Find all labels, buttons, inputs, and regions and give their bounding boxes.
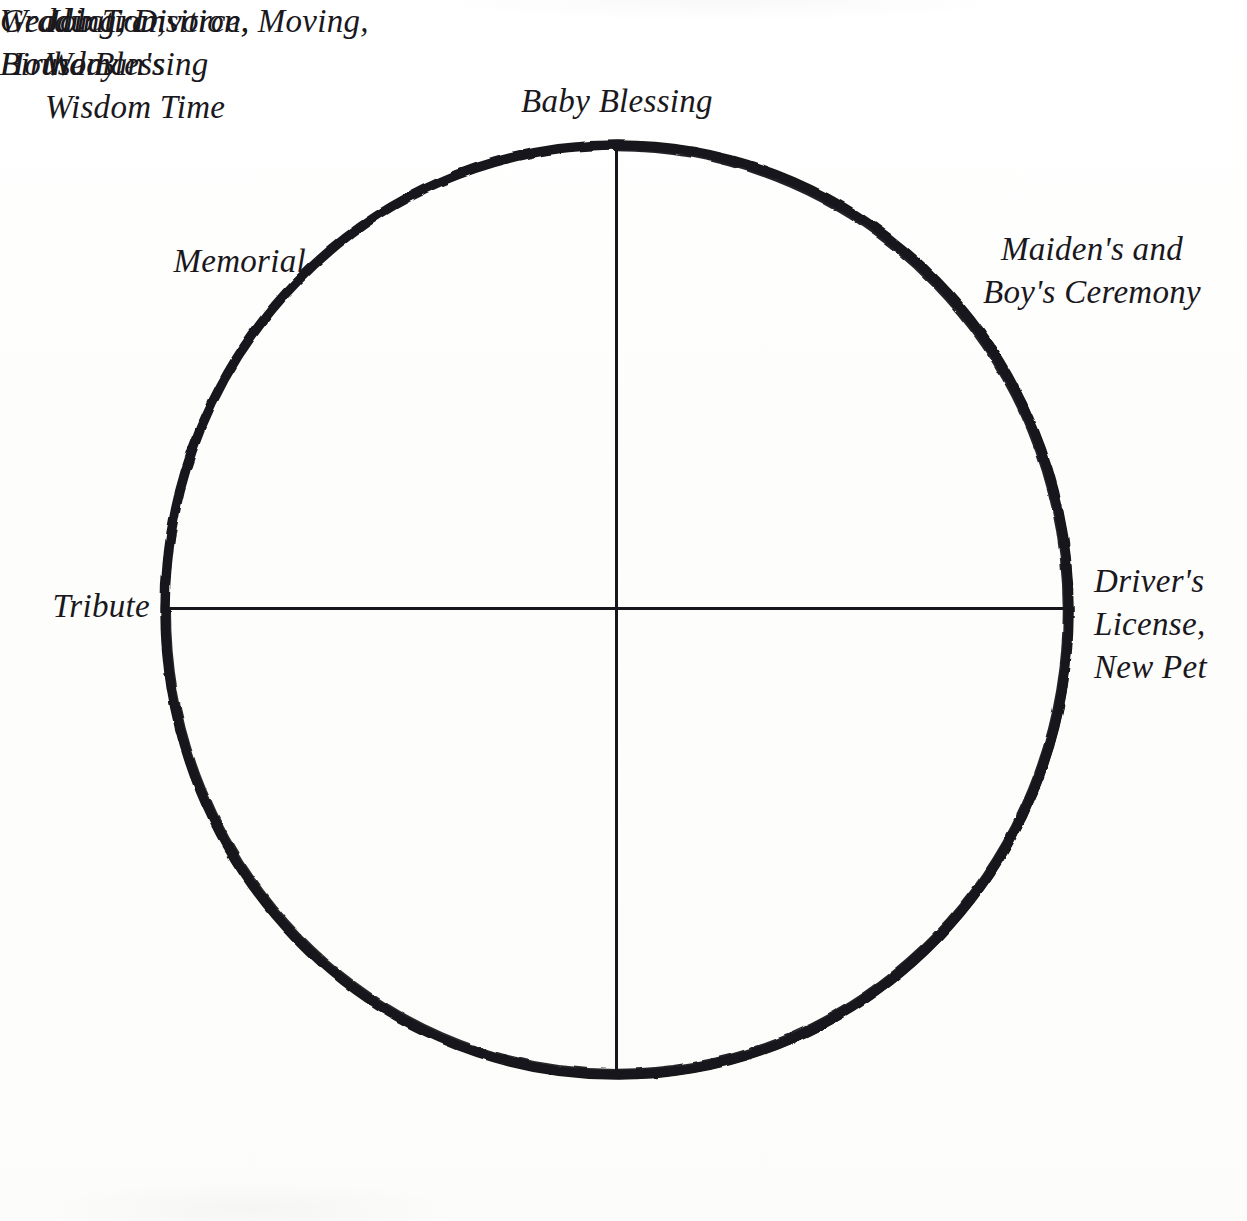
label-baby-blessing: Baby Blessing — [437, 80, 797, 123]
label-tribute: Tribute — [0, 585, 150, 628]
horizontal-axis-line — [167, 608, 1068, 609]
scanned-page: Baby Blessing Memorial Maiden's and Boy'… — [0, 0, 1247, 1221]
label-drivers-license-new-pet: Driver's License, New Pet — [1094, 560, 1244, 689]
label-memorial: Memorial — [86, 240, 306, 283]
circle-quadrant-diagram — [0, 0, 1247, 1221]
label-wedding-divorce-moving-house-blessing: Wedding, Divorce, Moving, House Blessing — [0, 0, 369, 86]
label-maidens-boys-ceremony: Maiden's and Boy's Ceremony — [968, 228, 1216, 314]
